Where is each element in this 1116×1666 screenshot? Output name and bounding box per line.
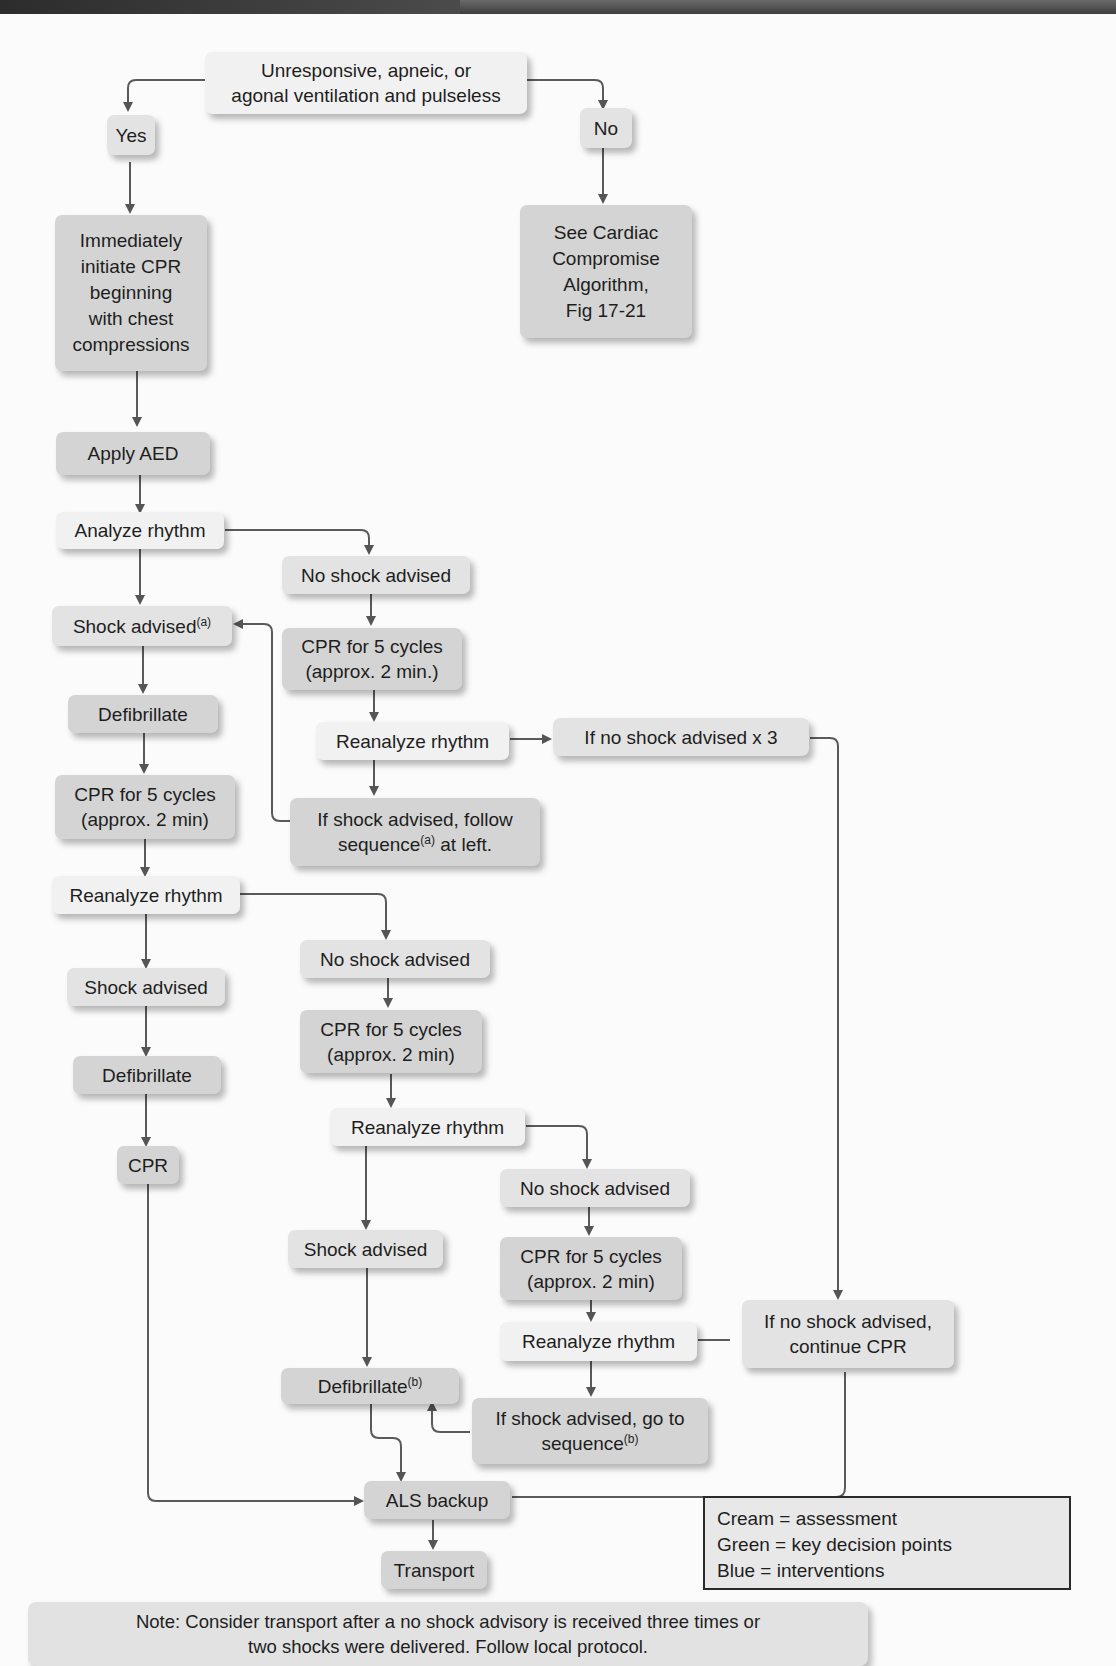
- legend-item-blue: Blue = interventions: [717, 1558, 1057, 1584]
- node-transport: Transport: [381, 1551, 487, 1589]
- node-text: No shock advised: [320, 947, 470, 972]
- note-line: two shocks were delivered. Follow local …: [28, 1634, 868, 1659]
- node-shock-advised-a: Shock advised(a): [52, 606, 232, 646]
- node-text: No shock advised: [520, 1176, 670, 1201]
- legend-item-cream: Cream = assessment: [717, 1506, 1057, 1532]
- node-cpr-5-cycles-3: CPR for 5 cycles (approx. 2 min): [300, 1010, 482, 1073]
- node-text: Shock advised(a): [73, 614, 211, 639]
- node-text: CPR: [128, 1153, 168, 1178]
- node-text: with chest: [89, 306, 173, 332]
- node-text: ALS backup: [386, 1488, 488, 1513]
- arrow-reanalyze2-to-no-shock2: [240, 894, 386, 938]
- node-cpr-5-cycles-1: CPR for 5 cycles (approx. 2 min.): [282, 628, 462, 690]
- node-text: CPR for 5 cycles: [301, 634, 442, 659]
- node-yes: Yes: [107, 115, 155, 155]
- footnote-marker: (a): [420, 833, 435, 847]
- node-text: continue CPR: [789, 1334, 906, 1359]
- node-text: compressions: [72, 332, 189, 358]
- node-continue-cpr: If no shock advised, continue CPR: [742, 1300, 954, 1368]
- arrow-defib-b-to-als: [371, 1400, 401, 1480]
- node-text: Reanalyze rhythm: [69, 883, 222, 908]
- node-als-backup: ALS backup: [364, 1481, 510, 1519]
- node-text: Shock advised: [84, 975, 208, 1000]
- node-text: Unresponsive, apneic, or: [261, 58, 471, 83]
- node-no: No: [580, 108, 632, 148]
- note-line: Note: Consider transport after a no shoc…: [28, 1609, 868, 1634]
- node-text: sequence(b): [541, 1431, 638, 1456]
- node-label: at left.: [435, 834, 492, 855]
- node-text: Shock advised: [304, 1237, 428, 1262]
- node-text: See Cardiac: [554, 220, 659, 246]
- node-text: CPR for 5 cycles: [320, 1017, 461, 1042]
- node-cpr-5-cycles-4: CPR for 5 cycles (approx. 2 min): [500, 1237, 682, 1300]
- node-text: Defibrillate(b): [318, 1374, 422, 1399]
- node-text: (approx. 2 min.): [305, 659, 438, 684]
- node-no-shock-x3: If no shock advised x 3: [553, 718, 809, 756]
- node-text: Transport: [394, 1558, 475, 1583]
- node-text: agonal ventilation and pulseless: [231, 83, 500, 108]
- footnote-marker: (b): [624, 1432, 639, 1446]
- node-text: If shock advised, follow: [317, 807, 512, 832]
- node-cpr-5-cycles-2: CPR for 5 cycles (approx. 2 min): [55, 775, 235, 839]
- node-text: No: [594, 116, 618, 141]
- arrow-cpr-to-als: [148, 1180, 362, 1501]
- node-text: (approx. 2 min): [527, 1269, 655, 1294]
- arrow-start-to-yes: [128, 80, 205, 110]
- node-text: No shock advised: [301, 563, 451, 588]
- arrow-analyze-to-no-shock: [225, 530, 369, 553]
- node-text: Reanalyze rhythm: [336, 729, 489, 754]
- node-apply-aed: Apply AED: [56, 432, 210, 475]
- footnote-marker: (a): [196, 614, 211, 628]
- node-text: Defibrillate: [102, 1063, 192, 1088]
- node-text: If shock advised, go to: [495, 1406, 684, 1431]
- node-text: beginning: [90, 280, 172, 306]
- node-analyze-rhythm: Analyze rhythm: [56, 512, 224, 549]
- node-see-cardiac-compromise: See Cardiac Compromise Algorithm, Fig 17…: [520, 205, 692, 338]
- node-reanalyze-rhythm-4: Reanalyze rhythm: [500, 1322, 697, 1361]
- node-text: Apply AED: [88, 441, 179, 466]
- node-label: Defibrillate: [318, 1376, 408, 1397]
- node-initiate-cpr: Immediately initiate CPR beginning with …: [55, 215, 207, 371]
- node-text: CPR for 5 cycles: [520, 1244, 661, 1269]
- legend-item-green: Green = key decision points: [717, 1532, 1057, 1558]
- node-no-shock-advised-3: No shock advised: [500, 1169, 690, 1207]
- footnote-marker: (b): [408, 1374, 423, 1388]
- node-go-to-sequence-b: If shock advised, go to sequence(b): [472, 1398, 708, 1464]
- node-unresponsive-check: Unresponsive, apneic, or agonal ventilat…: [205, 52, 527, 114]
- node-defibrillate-2: Defibrillate: [73, 1056, 221, 1094]
- node-reanalyze-rhythm-1: Reanalyze rhythm: [316, 722, 509, 760]
- node-text: Yes: [116, 123, 147, 148]
- protocol-note: Note: Consider transport after a no shoc…: [28, 1602, 868, 1666]
- node-text: (approx. 2 min): [81, 807, 209, 832]
- node-text: Fig 17-21: [566, 298, 646, 324]
- node-label: sequence: [541, 1433, 623, 1454]
- arrow-start-to-no: [525, 80, 603, 108]
- arrow-x3-to-continue: [810, 738, 838, 1298]
- node-text: Compromise: [552, 246, 660, 272]
- node-text: Reanalyze rhythm: [522, 1329, 675, 1354]
- node-defibrillate-b: Defibrillate(b): [281, 1368, 459, 1404]
- node-label: sequence: [338, 834, 420, 855]
- node-text: CPR for 5 cycles: [74, 782, 215, 807]
- node-shock-advised-3: Shock advised: [288, 1230, 443, 1268]
- node-text: If no shock advised,: [764, 1309, 932, 1334]
- node-text: Reanalyze rhythm: [351, 1115, 504, 1140]
- node-text: Immediately: [80, 228, 182, 254]
- color-legend: Cream = assessment Green = key decision …: [703, 1496, 1071, 1590]
- node-text: (approx. 2 min): [327, 1042, 455, 1067]
- node-shock-advised-2: Shock advised: [67, 968, 225, 1006]
- node-text: sequence(a) at left.: [338, 832, 492, 857]
- node-text: Analyze rhythm: [75, 518, 206, 543]
- node-no-shock-advised-2: No shock advised: [300, 940, 490, 978]
- node-defibrillate-1: Defibrillate: [68, 695, 218, 733]
- node-reanalyze-rhythm-3: Reanalyze rhythm: [330, 1108, 525, 1146]
- node-text: initiate CPR: [81, 254, 181, 280]
- node-reanalyze-rhythm-2: Reanalyze rhythm: [52, 876, 240, 914]
- node-text: Algorithm,: [563, 272, 649, 298]
- node-cpr: CPR: [117, 1146, 179, 1184]
- node-no-shock-advised-1: No shock advised: [282, 556, 470, 594]
- node-text: If no shock advised x 3: [584, 725, 777, 750]
- node-text: Defibrillate: [98, 702, 188, 727]
- node-follow-sequence-a: If shock advised, follow sequence(a) at …: [290, 798, 540, 866]
- arrow-reanalyze3-to-no-shock3: [526, 1126, 587, 1167]
